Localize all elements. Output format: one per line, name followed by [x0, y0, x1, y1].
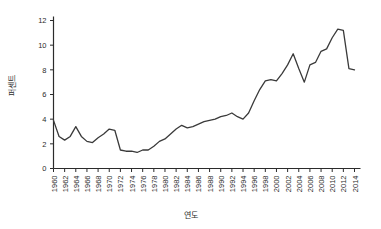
- x-tick-label: 1964: [72, 176, 81, 193]
- line-chart: 퍼센트 024681012 19601962196419661968197019…: [0, 0, 381, 229]
- x-tick-label: 1972: [116, 176, 125, 193]
- x-tick-label: 1978: [150, 176, 159, 193]
- x-tick-label: 1988: [206, 176, 215, 193]
- x-tick-label: 2006: [306, 176, 315, 193]
- x-tick-label: 1992: [228, 176, 237, 193]
- x-tick-label: 1980: [161, 176, 170, 193]
- x-tick-label: 1998: [261, 176, 270, 193]
- y-tick-label: 10: [38, 41, 46, 50]
- x-tick-label: 1982: [172, 176, 181, 193]
- y-tick-label: 0: [42, 164, 46, 173]
- y-tick-label: 6: [42, 90, 46, 99]
- x-tick-label: 2000: [272, 176, 281, 193]
- chart-canvas: 024681012 196019621964196619681970197219…: [0, 0, 381, 229]
- x-tick-label: 1990: [217, 176, 226, 193]
- x-tick-label: 1974: [128, 176, 137, 193]
- x-tick-label: 1996: [250, 176, 259, 193]
- x-tick-label: 2004: [295, 176, 304, 193]
- x-tick-label: 1966: [83, 176, 92, 193]
- y-tick-label: 12: [38, 16, 46, 25]
- x-tick-label: 1962: [61, 176, 70, 193]
- x-tick-label: 1968: [94, 176, 103, 193]
- x-tick-label: 1976: [139, 176, 148, 193]
- y-tick-label: 2: [42, 140, 46, 149]
- data-series-line: [54, 29, 355, 152]
- x-tick-label: 2014: [351, 176, 360, 193]
- x-axis-title: 연도: [0, 209, 381, 220]
- x-tick-label: 2010: [328, 176, 337, 193]
- x-axis-ticks: 1960196219641966196819701972197419761978…: [50, 169, 360, 193]
- x-tick-label: 2012: [339, 176, 348, 193]
- x-tick-label: 1970: [105, 176, 114, 193]
- y-tick-label: 8: [42, 66, 46, 75]
- x-tick-label: 2008: [317, 176, 326, 193]
- x-axis-title-text: 연도: [184, 211, 198, 220]
- y-axis-ticks: 024681012: [38, 16, 53, 173]
- x-tick-label: 2002: [284, 176, 293, 193]
- x-tick-label: 1994: [239, 176, 248, 193]
- x-tick-label: 1960: [50, 176, 59, 193]
- y-tick-label: 4: [42, 115, 46, 124]
- x-tick-label: 1984: [183, 176, 192, 193]
- x-tick-label: 1986: [194, 176, 203, 193]
